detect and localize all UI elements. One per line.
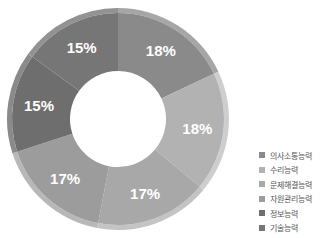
legend-label: 기술능력 [270,222,298,233]
legend-swatch [259,181,265,187]
legend-swatch [259,225,265,231]
legend-swatch [259,167,265,173]
donut-chart: 18%18%17%17%15%15% [0,0,240,238]
slice-percent-label: 15% [24,97,54,114]
legend-swatch [259,196,265,202]
slice-percent-label: 17% [50,170,80,187]
legend-swatch [259,210,265,216]
legend-label: 문제해결능력 [270,179,312,190]
chart-legend: 의사소통능력 수리능력 문제해결능력 자원관리능력 정보능력 기술능력 [259,148,312,235]
legend-swatch [259,152,265,158]
legend-label: 자원관리능력 [270,193,312,204]
legend-item-numeracy: 수리능력 [259,163,312,178]
slice-percent-label: 15% [67,39,97,56]
legend-label: 의사소통능력 [270,150,312,161]
legend-item-communication: 의사소통능력 [259,148,312,163]
legend-label: 수리능력 [270,164,298,175]
legend-item-resource-management: 자원관리능력 [259,192,312,207]
legend-label: 정보능력 [270,208,298,219]
legend-item-information: 정보능력 [259,206,312,221]
slice-percent-label: 18% [146,42,176,59]
slice-percent-label: 18% [182,120,212,137]
legend-item-technical: 기술능력 [259,221,312,236]
legend-item-problem-solving: 문제해결능력 [259,177,312,192]
slice-percent-label: 17% [130,185,160,202]
